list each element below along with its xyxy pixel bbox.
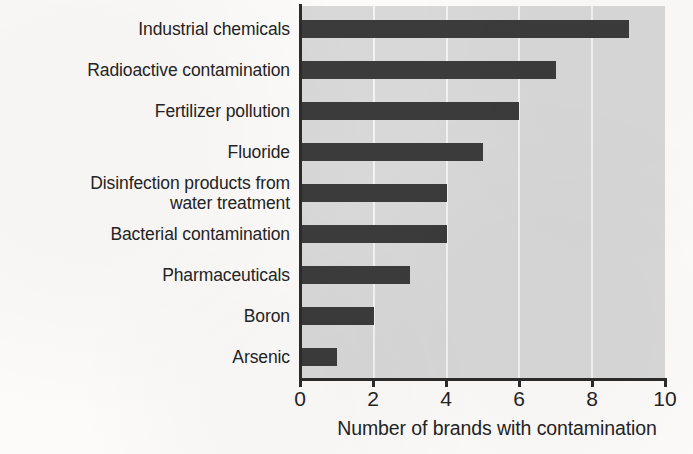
- bar-disinfection-products: [301, 184, 447, 202]
- x-axis-line: [299, 378, 666, 381]
- bar-fertilizer-pollution: [301, 102, 519, 120]
- bar-arsenic: [301, 348, 337, 366]
- category-label: Fluoride: [0, 142, 290, 162]
- category-label: Boron: [0, 306, 290, 326]
- x-tick-label: 2: [350, 386, 396, 412]
- bar-radioactive-contamination: [301, 61, 556, 79]
- category-label: Radioactive contamination: [0, 60, 290, 80]
- category-label: Industrial chemicals: [0, 19, 290, 39]
- x-axis-title: Number of brands with contamination: [301, 416, 693, 440]
- category-label: Pharmaceuticals: [0, 265, 290, 285]
- category-label-column: Industrial chemicals Radioactive contami…: [0, 6, 296, 378]
- bar-industrial-chemicals: [301, 20, 629, 38]
- bar-pharmaceuticals: [301, 266, 410, 284]
- category-label: Fertilizer pollution: [0, 101, 290, 121]
- category-label: Disinfection products from water treatme…: [0, 173, 290, 213]
- x-tick-label: 10: [642, 386, 688, 412]
- category-label: Arsenic: [0, 347, 290, 367]
- gridline-8: [591, 6, 593, 378]
- bar-bacterial-contamination: [301, 225, 447, 243]
- bar-fluoride: [301, 143, 483, 161]
- bar-chart-figure: Industrial chemicals Radioactive contami…: [0, 0, 693, 454]
- plot-area: [301, 6, 665, 378]
- x-tick-label: 8: [569, 386, 615, 412]
- x-tick-label: 4: [423, 386, 469, 412]
- x-tick-label: 6: [496, 386, 542, 412]
- bar-boron: [301, 307, 374, 325]
- x-tick-label: 0: [277, 386, 323, 412]
- y-axis-line: [299, 4, 302, 380]
- category-label: Bacterial contamination: [0, 224, 290, 244]
